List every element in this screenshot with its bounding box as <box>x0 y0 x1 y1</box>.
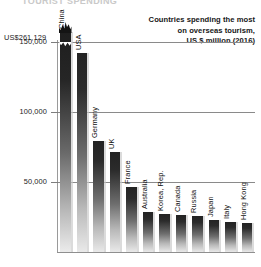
bar-group[interactable]: Japan <box>209 220 220 252</box>
axis-break-notch-icon <box>59 42 72 49</box>
bar-category-label: Italy <box>223 205 230 219</box>
bar-category-label: Germany <box>91 107 98 138</box>
bar-group[interactable]: Russia <box>192 216 203 252</box>
y-axis-tick-label: 100,000 <box>20 107 47 116</box>
bar[interactable] <box>159 214 170 252</box>
bar-category-label: UK <box>108 139 115 149</box>
bar-category-label: Korea, Rep. <box>157 170 164 211</box>
bar-group[interactable]: France <box>126 187 137 252</box>
bar-group[interactable]: Canada <box>176 215 187 252</box>
bar-group[interactable]: UK <box>110 152 121 252</box>
bar-group[interactable]: China <box>60 32 71 252</box>
bar-group[interactable]: USA <box>77 53 88 252</box>
bar[interactable] <box>126 187 137 252</box>
bar-chart-plot: 50,000100,000150,000 US$261,129 ChinaUSA… <box>0 0 261 267</box>
bar-group[interactable]: Korea, Rep. <box>159 214 170 252</box>
bar[interactable] <box>93 141 104 252</box>
chart-page: TOURIST SPENDING Countries spending the … <box>0 0 261 267</box>
bar-category-label: USA <box>75 35 82 51</box>
bar-category-label: Canada <box>174 186 181 213</box>
bar-category-label: Hong Kong <box>240 182 247 220</box>
bar-group[interactable]: Italy <box>225 222 236 252</box>
bar[interactable] <box>77 53 88 252</box>
bar[interactable] <box>176 215 187 252</box>
bar-group[interactable]: Australia <box>143 212 154 252</box>
bar[interactable] <box>209 220 220 252</box>
bar[interactable] <box>110 152 121 252</box>
y-axis-tick-label: 50,000 <box>24 177 47 186</box>
bar-group[interactable]: Germany <box>93 141 104 252</box>
bar-category-label: Australia <box>141 179 148 209</box>
bars-layer: ChinaUSAGermanyUKFranceAustraliaKorea, R… <box>57 0 255 267</box>
bar[interactable] <box>192 216 203 252</box>
bar[interactable] <box>242 223 253 252</box>
bar-category-label: Russia <box>190 190 197 213</box>
bar-category-label: France <box>124 160 131 184</box>
bar-category-label: Japan <box>207 196 214 217</box>
bar[interactable] <box>143 212 154 252</box>
china-value-callout: US$261,129 <box>4 33 46 42</box>
bar-category-label: China <box>58 9 65 29</box>
bar-group[interactable]: Hong Kong <box>242 223 253 252</box>
bar[interactable] <box>225 222 236 252</box>
bar[interactable] <box>60 32 71 252</box>
